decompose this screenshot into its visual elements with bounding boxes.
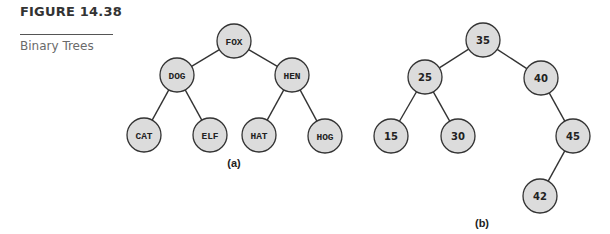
node-label: 35 [476,35,490,46]
tree-node-15: 15 [374,119,408,153]
node-label: FOX [225,37,242,48]
node-label: 40 [534,73,548,84]
edge-fox-hen [249,50,278,67]
tree-a: FOXDOGHENCATELFHATHOG(a) [127,24,342,169]
edge-25-15 [399,92,416,122]
tree-node-elf: ELF [193,118,227,152]
tree-node-cat: CAT [127,118,161,152]
tree-node-30: 30 [441,119,475,153]
edge-hen-hat [267,90,284,120]
edge-25-30 [433,92,449,121]
tree-node-25: 25 [408,60,442,94]
node-label: HOG [316,132,333,143]
tree-node-40: 40 [524,61,558,95]
tree-node-42: 42 [523,179,557,213]
edge-dog-elf [185,90,202,120]
node-label: HAT [250,131,267,142]
edge-fox-dog [192,50,220,67]
node-label: 15 [384,131,398,142]
edge-35-40 [497,49,527,68]
edge-dog-cat [152,90,169,120]
tree-node-35: 35 [466,23,500,57]
node-label: ELF [201,131,218,142]
node-label: 25 [418,72,432,83]
tree-node-hog: HOG [308,119,342,153]
node-label: 45 [566,131,580,142]
node-label: 30 [451,131,465,142]
edge-45-42 [548,151,565,181]
edge-40-45 [549,93,565,121]
tree-node-hen: HEN [275,58,309,92]
binary-trees-diagram: FOXDOGHENCATELFHATHOG(a) 35254015304542(… [0,0,610,234]
edge-35-25 [439,49,468,68]
node-label: DOG [168,71,185,82]
tree-node-hat: HAT [242,118,276,152]
edge-hen-hog [300,90,317,121]
tree-b: 35254015304542(b) [374,23,590,229]
subfigure-caption-a: (a) [227,157,241,169]
tree-node-45: 45 [556,119,590,153]
subfigure-caption-b: (b) [475,217,489,229]
node-label: 42 [533,191,547,202]
node-label: HEN [283,71,300,82]
tree-node-fox: FOX [217,24,251,58]
tree-node-dog: DOG [160,58,194,92]
node-label: CAT [135,131,152,142]
